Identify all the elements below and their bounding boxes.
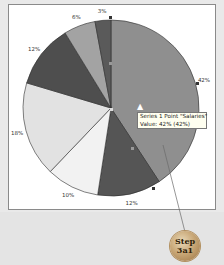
tooltip-series-point: Series 1 Point "Salaries": [140, 113, 204, 121]
selection-handle[interactable]: [131, 147, 134, 150]
tooltip-value: Value: 42% (42%): [140, 121, 204, 129]
data-label: 3%: [98, 8, 107, 14]
pie-chart: 42%12%10%18%12%6%3%: [0, 0, 224, 265]
data-label: 10%: [62, 192, 74, 198]
step-badge-number: 3a1: [170, 246, 200, 255]
data-label: 12%: [28, 46, 40, 52]
data-label: 18%: [11, 130, 23, 136]
selection-handle[interactable]: [109, 16, 112, 19]
mouse-cursor-icon: ▲: [137, 102, 143, 111]
data-label: 42%: [198, 77, 210, 83]
selection-handle[interactable]: [110, 108, 113, 111]
chart-tooltip: Series 1 Point "Salaries" Value: 42% (42…: [137, 112, 207, 129]
step-badge: Step 3a1: [170, 231, 200, 261]
selection-handle[interactable]: [196, 82, 199, 85]
selection-handle[interactable]: [152, 187, 155, 190]
data-label: 6%: [72, 14, 81, 20]
selection-handle[interactable]: [109, 62, 112, 65]
data-label: 12%: [125, 200, 137, 206]
